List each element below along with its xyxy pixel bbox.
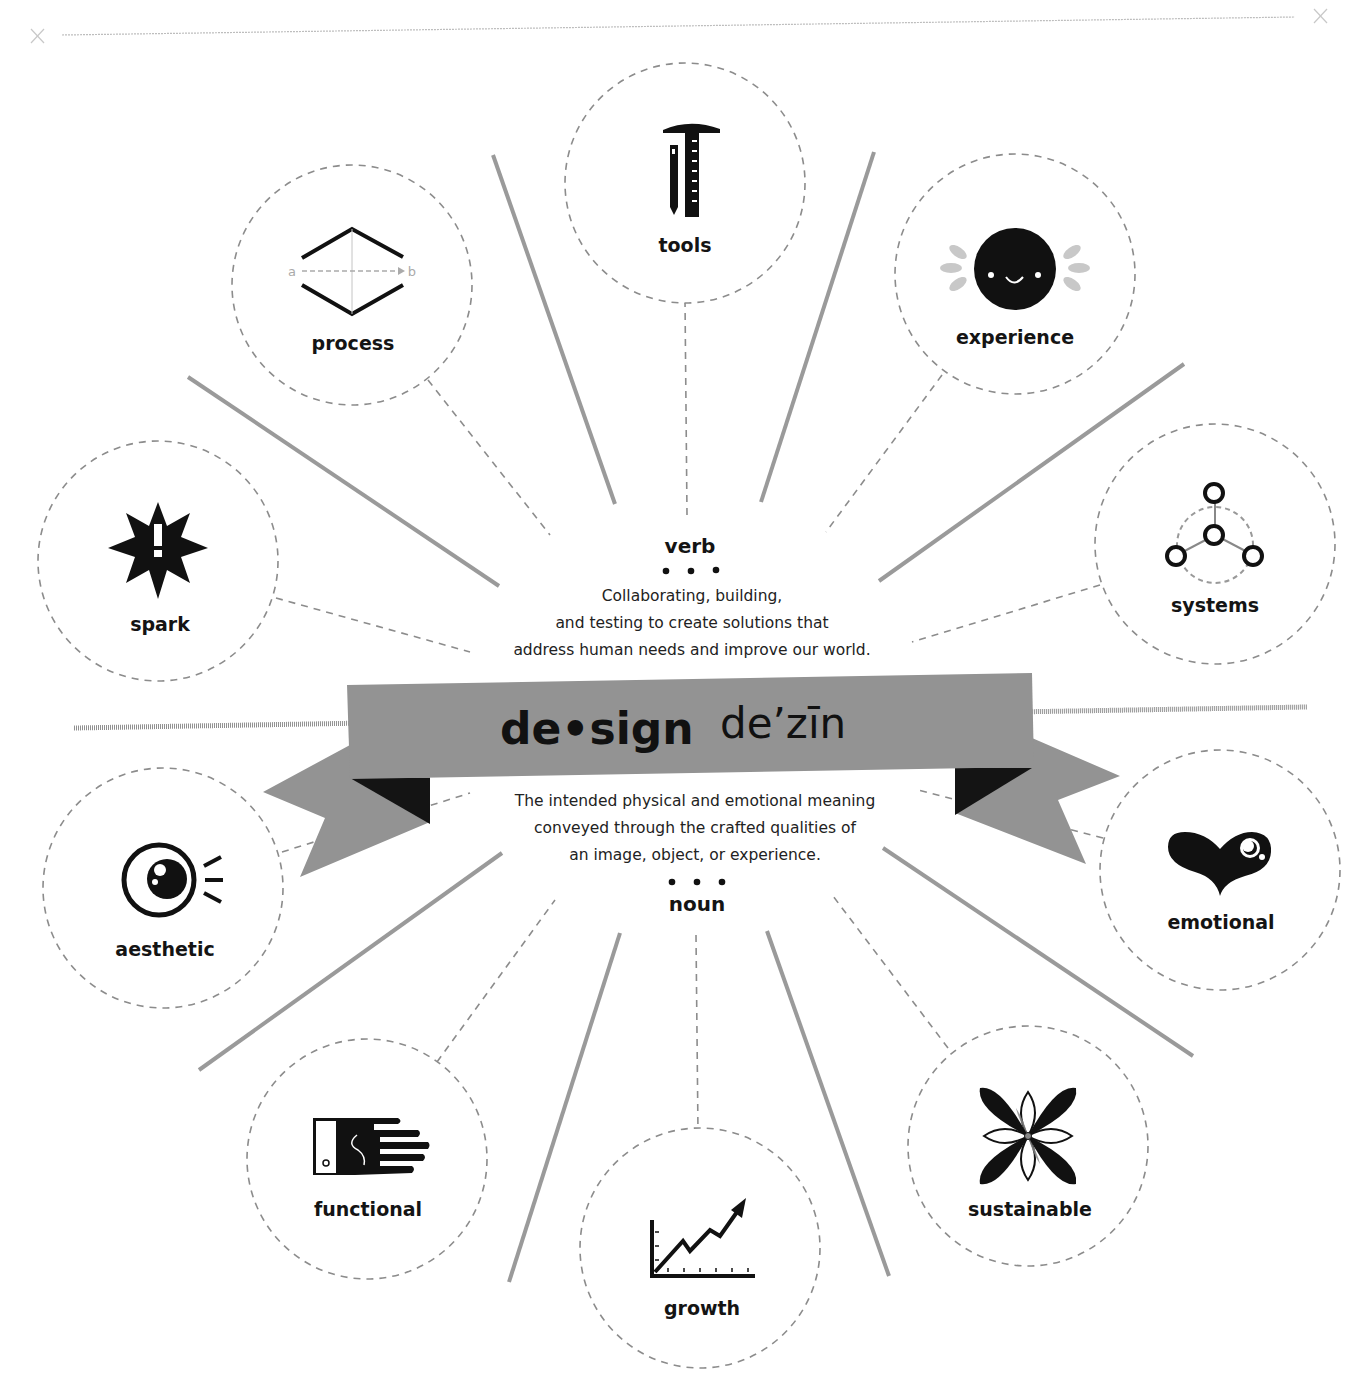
crop-mark-right-icon <box>1314 9 1327 23</box>
node-spark: spark <box>38 441 278 681</box>
node-tools: tools <box>565 63 805 303</box>
design-radial-diagram: de•sign de’zīn verb Collaborating, build… <box>0 0 1365 1392</box>
process-point-a: a <box>288 264 296 279</box>
noun-line-3: an image, object, or experience. <box>569 846 821 864</box>
node-sustainable: sustainable <box>908 1026 1148 1266</box>
node-label-aesthetic: aesthetic <box>115 938 214 960</box>
noun-line-1: The intended physical and emotional mean… <box>514 792 876 810</box>
node-label-growth: growth <box>664 1297 740 1319</box>
noun-label: noun <box>669 892 725 916</box>
pronunciation: de’zīn <box>720 699 846 748</box>
node-aesthetic: aesthetic <box>43 768 283 1008</box>
flower-icon <box>980 1088 1077 1185</box>
noun-line-2: conveyed through the crafted qualities o… <box>534 819 856 837</box>
noun-definition: The intended physical and emotional mean… <box>514 792 876 916</box>
verb-line-1: Collaborating, building, <box>602 587 783 605</box>
headword: de•sign <box>500 703 694 754</box>
node-systems: systems <box>1095 424 1335 664</box>
node-emotional: emotional <box>1100 750 1340 990</box>
node-label-systems: systems <box>1171 594 1259 616</box>
top-rule <box>31 9 1327 43</box>
verb-line-3: address human needs and improve our worl… <box>513 641 870 659</box>
node-label-emotional: emotional <box>1167 911 1274 933</box>
node-label-process: process <box>312 332 395 354</box>
verb-line-2: and testing to create solutions that <box>555 614 828 632</box>
verb-bullets <box>663 567 720 575</box>
node-functional: functional <box>247 1039 487 1279</box>
node-label-sustainable: sustainable <box>968 1198 1092 1220</box>
node-label-functional: functional <box>314 1198 422 1220</box>
node-label-spark: spark <box>130 613 190 635</box>
node-label-experience: experience <box>956 326 1074 348</box>
node-label-tools: tools <box>658 234 711 256</box>
process-point-b: b <box>408 264 416 279</box>
crop-mark-left-icon <box>31 29 44 43</box>
node-process: a b process <box>232 165 472 405</box>
node-experience: experience <box>895 154 1135 394</box>
noun-bullets <box>669 879 726 886</box>
node-growth: growth <box>580 1128 820 1368</box>
verb-definition: verb Collaborating, building, and testin… <box>513 534 870 659</box>
verb-label: verb <box>665 534 716 558</box>
